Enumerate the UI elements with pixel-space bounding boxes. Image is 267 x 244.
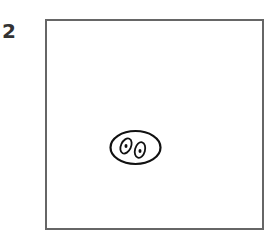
face-drawing [0, 0, 267, 244]
left-eye-icon [118, 137, 134, 156]
oval-face-icon [111, 131, 161, 164]
right-eye-icon [133, 141, 147, 159]
